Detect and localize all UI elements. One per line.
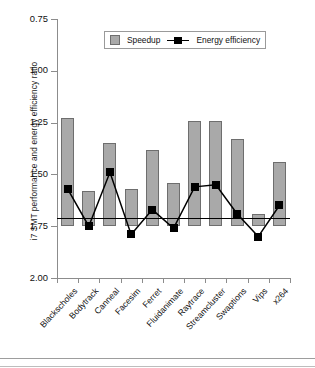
energy-marker-vips [254,233,262,241]
energy-marker-bodytrack [85,222,93,230]
y-tick-label: 1.75 [8,220,48,231]
energy-marker-ferret [148,206,156,214]
energy-marker-x264 [275,201,283,209]
energy-marker-blackscholes [64,185,72,193]
energy-marker-raytrace [191,183,199,191]
y-tick-label: 1.25 [8,116,48,127]
legend-marker-energy-efficiency [167,36,189,44]
energy-marker-streamcluster [212,181,220,189]
energy-marker-swaptions [233,210,241,218]
chart-legend: Speedup Energy efficiency [104,31,266,49]
y-tick-label: 1.50 [8,168,48,179]
energy-marker-fluidanimate [170,224,178,232]
y-tick-label: 1.00 [8,64,48,75]
figure-bottom-rule-secondary [0,366,315,367]
energy-marker-canneal [106,168,114,176]
y-tick-label: 0.75 [8,13,48,24]
line-series-energy-efficiency [57,19,290,278]
y-tick-label: 2.00 [8,272,48,283]
legend-label-speedup: Speedup [127,36,161,44]
chart-figure: i7 SMT performance and energy efficiency… [0,0,315,368]
energy-marker-facesim [127,230,135,238]
legend-swatch-speedup [110,35,120,45]
figure-bottom-rule [0,358,315,359]
x-tick-mark [57,278,58,283]
legend-label-energy-efficiency: Energy efficiency [196,36,260,44]
